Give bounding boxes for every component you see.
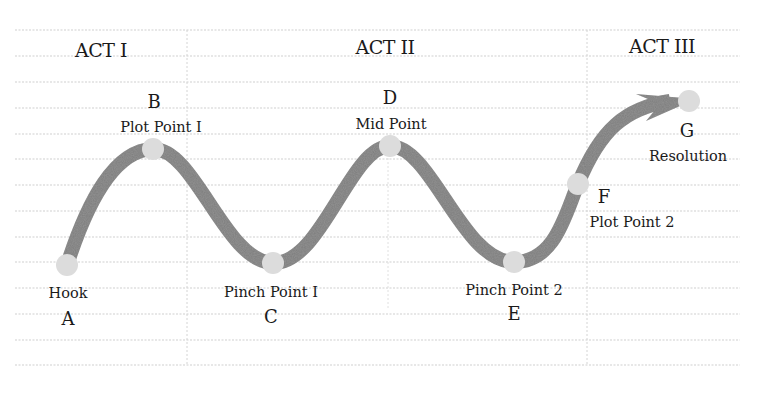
act-1-heading: ACT I	[74, 39, 127, 61]
point-caption-pinch-point-1: Pinch Point I	[224, 284, 318, 300]
point-letter-e: E	[507, 303, 520, 324]
point-letter-f: F	[598, 186, 611, 207]
act-dividers	[187, 30, 587, 365]
point-caption-plot-point-1: Plot Point I	[120, 119, 202, 135]
act-headings: ACT I ACT II ACT III	[74, 35, 695, 61]
point-letter-g: G	[680, 120, 694, 141]
point-caption-pinch-point-2: Pinch Point 2	[465, 282, 562, 298]
act-3-heading: ACT III	[628, 35, 695, 57]
point-caption-resolution: Resolution	[649, 148, 727, 164]
node-b	[142, 138, 164, 160]
point-letter-b: B	[147, 91, 160, 112]
node-f	[567, 173, 589, 195]
node-d	[379, 135, 401, 157]
node-c	[262, 252, 284, 274]
node-e	[503, 251, 525, 273]
point-caption-hook: Hook	[49, 285, 88, 301]
grid-lines	[15, 30, 740, 365]
point-letter-d: D	[383, 87, 397, 108]
act-2-heading: ACT II	[355, 36, 415, 58]
story-structure-diagram: ACT I ACT II ACT III A B C D E F G Hook …	[0, 0, 761, 394]
point-caption-mid-point: Mid Point	[355, 116, 426, 132]
point-letter-c: C	[264, 306, 278, 327]
point-letter-a: A	[61, 308, 76, 329]
node-g	[678, 90, 700, 112]
node-a	[56, 254, 78, 276]
point-caption-plot-point-2: Plot Point 2	[589, 214, 674, 230]
